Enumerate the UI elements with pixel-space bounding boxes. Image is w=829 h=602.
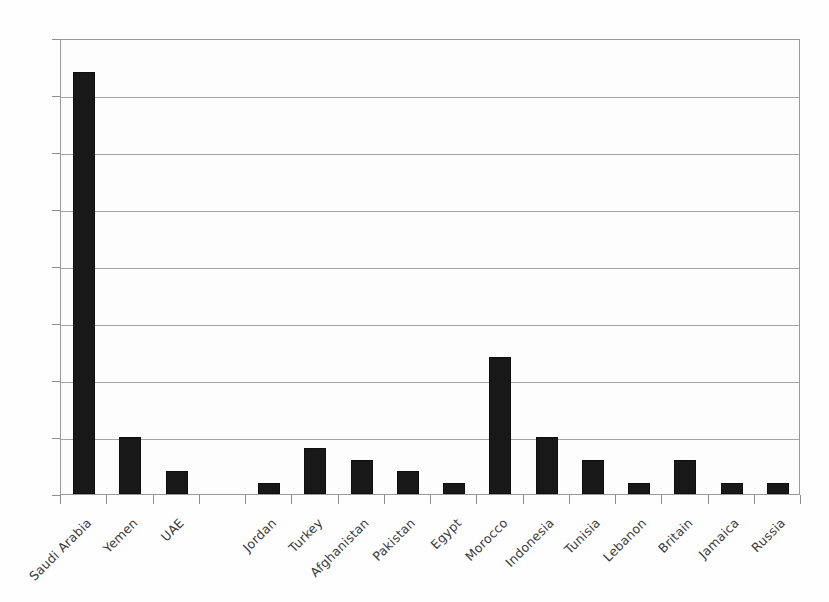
bar: [674, 460, 696, 494]
y-tick-mark-35: [52, 96, 60, 97]
x-tick-label-egypt: Egypt: [129, 515, 464, 602]
x-tick-label-jamaica: Jamaica: [210, 515, 741, 602]
y-tick-mark-20: [52, 267, 60, 268]
x-tick-mark: [430, 495, 431, 504]
bar: [351, 460, 373, 494]
x-tick-label-afghanistan: Afghanistan: [102, 515, 372, 602]
x-tick-mark: [338, 495, 339, 504]
y-tick-mark-15: [52, 324, 60, 325]
x-tick-mark: [384, 495, 385, 504]
gridline-30: [61, 154, 799, 155]
x-tick-label-turkey: Turkey: [89, 515, 326, 602]
x-tick-label-lebanon: Lebanon: [183, 515, 649, 602]
x-tick-mark: [106, 495, 107, 504]
x-tick-mark: [153, 495, 154, 504]
x-tick-mark: [800, 495, 801, 504]
gridline-5: [61, 439, 799, 440]
bar: [73, 72, 95, 494]
x-tick-label-tunisia: Tunisia: [170, 515, 603, 602]
bar: [166, 471, 188, 494]
x-tick-mark: [615, 495, 616, 504]
x-tick-label-britain: Britain: [197, 515, 696, 602]
bar: [397, 471, 419, 494]
x-tick-label-jordan: Jordan: [75, 515, 279, 602]
x-tick-label-uae: UAE: [48, 515, 187, 602]
gridline-10: [61, 382, 799, 383]
gridline-35: [61, 97, 799, 98]
x-tick-mark: [476, 495, 477, 504]
x-tick-mark: [523, 495, 524, 504]
bar: [489, 357, 511, 494]
x-tick-label-indonesia: Indonesia: [156, 515, 557, 602]
y-tick-mark-40: [52, 39, 60, 40]
bar: [119, 437, 141, 494]
gridline-25: [61, 211, 799, 212]
bar: [258, 483, 280, 494]
x-tick-mark: [199, 495, 200, 504]
x-tick-label-pakistan: Pakistan: [116, 515, 419, 602]
x-tick-mark: [60, 495, 61, 504]
plot-area: [60, 39, 800, 495]
bar: [536, 437, 558, 494]
x-tick-label-russia: Russia: [224, 515, 788, 602]
y-axis: 0510152025303540: [0, 0, 60, 602]
x-tick-mark: [754, 495, 755, 504]
gridline-20: [61, 268, 799, 269]
x-tick-label-morocco: Morocco: [143, 515, 511, 602]
bar: [443, 483, 465, 494]
x-tick-mark: [661, 495, 662, 504]
bar: [767, 483, 789, 494]
gridline-15: [61, 325, 799, 326]
y-tick-mark-30: [52, 153, 60, 154]
y-tick-mark-0: [52, 495, 60, 496]
x-tick-mark: [569, 495, 570, 504]
y-tick-mark-10: [52, 381, 60, 382]
bar: [304, 448, 326, 494]
x-tick-mark: [291, 495, 292, 504]
bar-chart: 0510152025303540 Saudi ArabiaYemenUAEJor…: [0, 0, 829, 602]
bar: [628, 483, 650, 494]
bar: [721, 483, 743, 494]
x-tick-mark: [245, 495, 246, 504]
x-tick-mark: [708, 495, 709, 504]
y-tick-mark-5: [52, 438, 60, 439]
bar: [582, 460, 604, 494]
y-tick-mark-25: [52, 210, 60, 211]
